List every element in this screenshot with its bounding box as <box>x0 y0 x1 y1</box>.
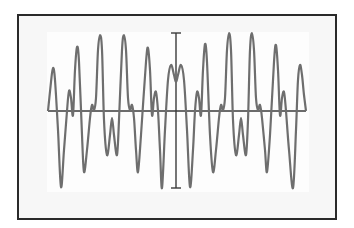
waveform-chart <box>0 0 354 228</box>
